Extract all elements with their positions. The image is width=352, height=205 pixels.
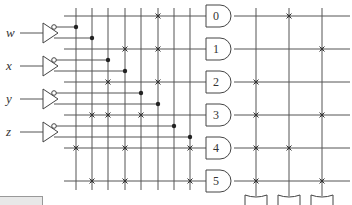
complement-dot-y: [139, 91, 143, 95]
cross-center: [157, 81, 159, 83]
and-gates: 012345: [206, 5, 231, 192]
input-label-y: y: [4, 91, 12, 106]
true-dot-z: [188, 135, 192, 139]
cross-center: [321, 48, 323, 50]
cross-center: [140, 114, 142, 116]
cross-center: [255, 147, 257, 149]
or-gates: [245, 195, 333, 205]
cross-center: [124, 180, 126, 182]
true-dot-w: [90, 36, 94, 40]
cross-center: [321, 180, 323, 182]
cross-center: [255, 81, 257, 83]
input-label-w: w: [6, 25, 15, 40]
static-wiring: [64, 8, 350, 196]
cross-center: [124, 147, 126, 149]
and-gate-label-2: 2: [213, 75, 219, 89]
complement-dot-z: [172, 124, 176, 128]
cross-center: [189, 180, 191, 182]
cross-center: [124, 48, 126, 50]
and-gate-label-0: 0: [213, 9, 219, 23]
cross-center: [255, 114, 257, 116]
cross-center: [288, 147, 290, 149]
cross-center: [255, 180, 257, 182]
cross-center: [189, 147, 191, 149]
cross-center: [75, 147, 77, 149]
inverter-bubble-y: [52, 91, 57, 96]
input-label-z: z: [5, 124, 11, 139]
or-gate-2: [311, 195, 333, 205]
corner-panel-fragment: [0, 196, 43, 205]
true-dot-x: [123, 69, 127, 73]
cross-center: [157, 48, 159, 50]
cross-center: [107, 81, 109, 83]
inverter-bubble-z: [52, 124, 57, 129]
or-gate-1: [278, 195, 300, 205]
input-label-x: x: [5, 58, 12, 73]
and-gate-label-3: 3: [213, 108, 219, 122]
complement-dot-w: [74, 25, 78, 29]
and-gate-label-5: 5: [213, 174, 219, 188]
cross-center: [91, 114, 93, 116]
or-gate-0: [245, 195, 267, 205]
pla-diagram: wxyz 012345: [0, 0, 352, 205]
complement-dot-x: [106, 58, 110, 62]
inverter-bubble-x: [52, 58, 57, 63]
and-gate-label-1: 1: [213, 42, 219, 56]
cross-center: [157, 15, 159, 17]
inverter-bubble-w: [52, 25, 57, 30]
cross-center: [91, 180, 93, 182]
cross-center: [321, 114, 323, 116]
true-dot-y: [156, 102, 160, 106]
and-gate-label-4: 4: [213, 141, 219, 155]
cross-center: [288, 15, 290, 17]
cross-center: [107, 114, 109, 116]
connection-marks: [74, 14, 325, 184]
